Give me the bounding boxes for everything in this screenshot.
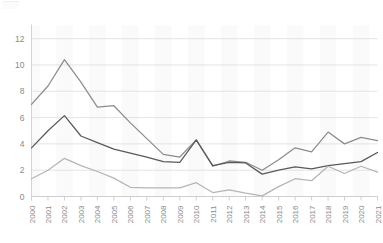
x-axis-tick-label: 2002 <box>60 205 69 223</box>
background-band <box>56 26 72 197</box>
x-axis-tick-label: 2011 <box>209 205 218 223</box>
x-axis-tick-label: 2014 <box>258 205 267 223</box>
chart-plot-area: 0246810122000200120022003200420052006200… <box>0 0 383 243</box>
x-axis-tick-label: 2008 <box>159 205 168 223</box>
x-axis-tick-label: 2003 <box>77 205 86 223</box>
y-axis-tick-label: 0 <box>20 192 25 202</box>
line-chart: 0246810122000200120022003200420052006200… <box>0 0 383 243</box>
y-axis-tick-label: 2 <box>20 165 25 175</box>
background-bands <box>32 26 370 197</box>
x-axis-tick-label: 2016 <box>291 205 300 223</box>
background-band <box>155 26 171 197</box>
background-band <box>287 26 303 197</box>
y-axis-tick-label: 12 <box>15 34 25 44</box>
background-band <box>221 26 237 197</box>
x-axis-tick-label: 2010 <box>192 205 201 223</box>
background-band <box>122 26 138 197</box>
x-axis-tick-label: 2021 <box>374 205 383 223</box>
x-axis-tick-label: 2012 <box>225 205 234 223</box>
x-axis-tick-label: 2004 <box>93 205 102 223</box>
x-axis-tick-label: 2005 <box>110 205 119 223</box>
x-axis-tick-label: 2000 <box>28 205 37 223</box>
x-axis-tick-label: 2020 <box>357 205 366 223</box>
x-axis-tick-label: 2007 <box>143 205 152 223</box>
x-axis-tick-label: 2006 <box>126 205 135 223</box>
y-axis-tick-label: 10 <box>15 60 25 70</box>
x-axis-ticks: 2000200120022003200420052006200720082009… <box>28 197 383 224</box>
x-axis-tick-label: 2018 <box>324 205 333 223</box>
background-band <box>32 26 40 197</box>
x-axis-tick-label: 2013 <box>242 205 251 223</box>
x-axis-tick-label: 2009 <box>176 205 185 223</box>
x-axis-tick-label: 2019 <box>341 205 350 223</box>
background-band <box>353 26 369 197</box>
y-axis-tick-label: 8 <box>20 86 25 96</box>
y-axis-tick-label: 4 <box>20 139 25 149</box>
y-axis-tick-label: 6 <box>20 113 25 123</box>
x-axis-tick-label: 2017 <box>308 205 317 223</box>
x-axis-tick-label: 2001 <box>44 205 53 223</box>
x-axis-tick-label: 2015 <box>275 205 284 223</box>
background-band <box>188 26 204 197</box>
